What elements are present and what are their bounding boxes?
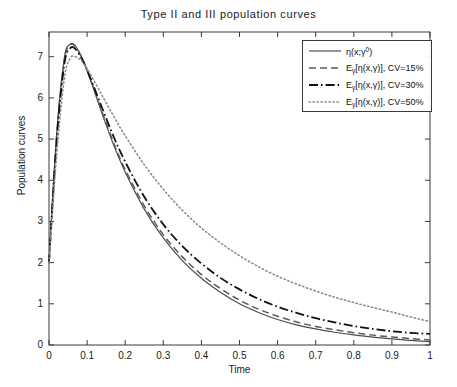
legend-label-1: Eγ[η(x,γ)], CV=15% [346, 64, 424, 75]
legend-item-2[interactable]: Eγ[η(x,γ)], CV=30% [303, 77, 433, 95]
legend-line-sample-solid-icon [308, 46, 342, 58]
figure-container: Type II and III population curves Popula… [0, 0, 457, 387]
legend-label-0: η(x;γ0) [346, 47, 372, 57]
chart-legend: η(x;γ0)Eγ[η(x,γ)], CV=15%Eγ[η(x,γ)], CV=… [302, 40, 432, 112]
legend-line-sample-dashdot-icon [308, 80, 342, 92]
legend-label-3: Eγ[η(x,γ)], CV=50% [346, 98, 424, 109]
legend-label-2: Eγ[η(x,γ)], CV=30% [346, 81, 424, 92]
legend-line-sample-dotted-icon [308, 97, 342, 109]
legend-item-0[interactable]: η(x;γ0) [303, 43, 433, 61]
legend-line-sample-dashed-icon [308, 63, 342, 75]
legend-item-3[interactable]: Eγ[η(x,γ)], CV=50% [303, 94, 433, 112]
legend-item-1[interactable]: Eγ[η(x,γ)], CV=15% [303, 60, 433, 78]
